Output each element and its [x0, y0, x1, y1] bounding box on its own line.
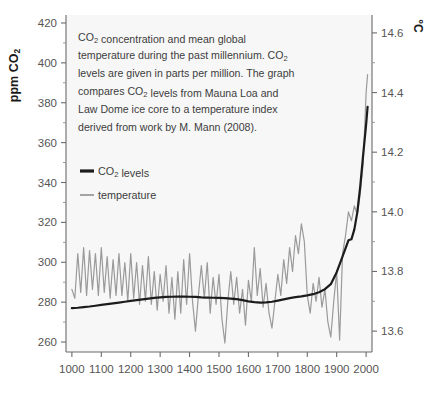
- y-tick-label-left: 400: [38, 57, 57, 69]
- y-tick-label-left: 380: [38, 97, 57, 109]
- y-tick-label-right: 13.8: [381, 265, 403, 277]
- legend-label: temperature: [98, 189, 156, 201]
- y-tick-label-left: 360: [38, 137, 57, 149]
- y-tick-label-right: 14.6: [381, 27, 403, 39]
- x-tick-label: 1000: [59, 363, 85, 375]
- y-axis-right-title: °C: [411, 19, 425, 33]
- x-tick-label: 1500: [206, 363, 232, 375]
- y-tick-label-right: 14.0: [381, 206, 403, 218]
- y-tick-label-left: 320: [38, 216, 57, 228]
- y-tick-label-left: 260: [38, 336, 57, 348]
- caption-line: Law Dome ice core to a temperature index: [78, 103, 278, 115]
- x-tick-label: 1400: [177, 363, 203, 375]
- x-tick-label: 1300: [147, 363, 173, 375]
- caption-line: derived from work by M. Mann (2008).: [78, 121, 257, 133]
- y-tick-label-left: 280: [38, 296, 57, 308]
- y-axis-left-title: ppm CO2: [7, 49, 22, 103]
- caption-line: CO2 concentration and mean global: [78, 31, 246, 45]
- y-tick-label-right: 13.6: [381, 325, 403, 337]
- y-tick-label-left: 340: [38, 177, 57, 189]
- y-tick-label-right: 14.2: [381, 146, 403, 158]
- y-tick-label-left: 420: [38, 17, 57, 29]
- x-tick-label: 1600: [236, 363, 262, 375]
- x-tick-label: 1800: [294, 363, 320, 375]
- x-tick-label: 2000: [353, 363, 379, 375]
- y-tick-label-left: 300: [38, 256, 57, 268]
- x-tick-label: 1700: [265, 363, 291, 375]
- x-tick-label: 1100: [89, 363, 114, 375]
- x-tick-label: 1200: [118, 363, 144, 375]
- x-tick-label: 1900: [324, 363, 350, 375]
- y-tick-label-right: 14.4: [381, 87, 404, 99]
- caption-line: levels are given in parts per million. T…: [78, 67, 295, 79]
- co2-temperature-chart: 26028030032034036038040042013.613.814.01…: [0, 0, 425, 407]
